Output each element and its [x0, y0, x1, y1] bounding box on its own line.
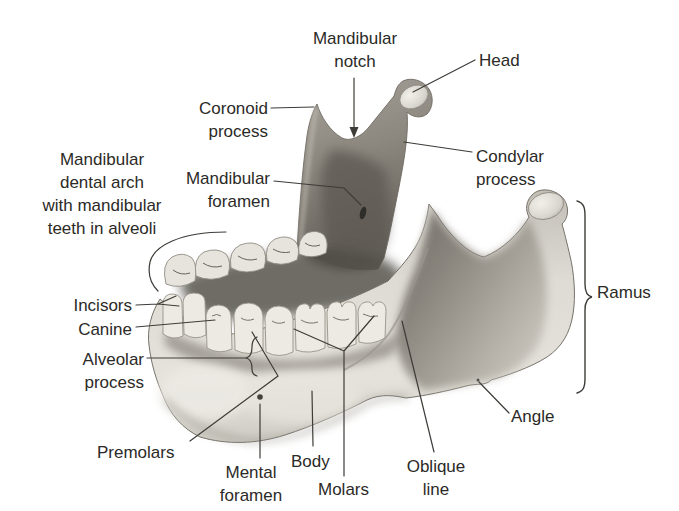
label-angle: Angle — [511, 405, 554, 428]
label-mandibular-foramen: Mandibularforamen — [160, 167, 270, 213]
labels-layer: Mandibularnotch Head Coronoidprocess Con… — [0, 0, 679, 511]
label-mandibular-notch: Mandibularnotch — [290, 27, 420, 73]
label-canine: Canine — [42, 318, 132, 341]
label-ramus: Ramus — [597, 281, 651, 304]
label-condylar-process: Condylarprocess — [476, 145, 544, 191]
label-alveolar-process: Alveolarprocess — [48, 348, 144, 394]
label-molars: Molars — [318, 478, 369, 501]
label-premolars: Premolars — [97, 441, 174, 464]
label-mental-foramen: Mentalforamen — [201, 461, 301, 507]
label-incisors: Incisors — [42, 294, 132, 317]
label-body: Body — [291, 450, 330, 473]
label-coronoid-process: Coronoidprocess — [158, 97, 268, 143]
label-oblique-line: Obliqueline — [386, 455, 486, 501]
mandible-diagram: Mandibularnotch Head Coronoidprocess Con… — [0, 0, 679, 511]
label-head: Head — [479, 49, 520, 72]
